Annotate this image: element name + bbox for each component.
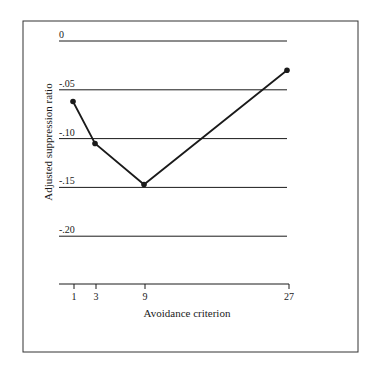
y-tick-label: 0 xyxy=(59,29,64,40)
data-point xyxy=(284,67,290,73)
y-tick-label: -.05 xyxy=(59,78,75,89)
chart-frame xyxy=(23,21,358,352)
x-tick-label: 3 xyxy=(94,291,99,302)
x-tick-label: 1 xyxy=(72,291,77,302)
y-tick-label: -.10 xyxy=(59,127,75,138)
x-axis xyxy=(59,284,289,289)
x-tick-label: 9 xyxy=(143,291,148,302)
x-tick-label: 27 xyxy=(284,291,294,302)
data-series xyxy=(70,67,290,187)
y-axis-title: Adjusted suppression ratio xyxy=(42,83,54,201)
y-tick-label: -.15 xyxy=(59,175,75,186)
x-axis-title: Avoidance criterion xyxy=(144,307,231,319)
line-chart: 0-.05-.10-.15-.20 13927 Avoidance criter… xyxy=(0,0,378,375)
data-point xyxy=(70,99,76,105)
data-point xyxy=(141,182,147,188)
y-axis-tick-labels: 0-.05-.10-.15-.20 xyxy=(59,29,75,235)
series-line xyxy=(73,70,287,184)
data-point xyxy=(92,141,98,147)
y-tick-label: -.20 xyxy=(59,224,75,235)
x-axis-tick-labels: 13927 xyxy=(72,291,295,302)
